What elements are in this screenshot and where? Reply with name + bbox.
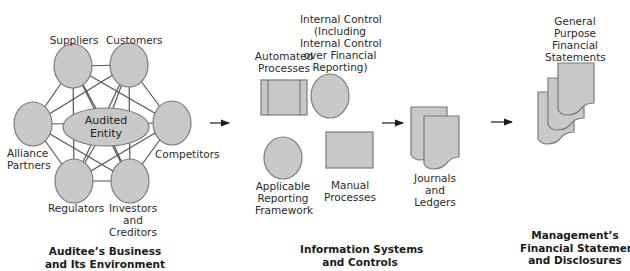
label-audited-line1: Audited [76,114,136,127]
label-fw-line1: Applicable [255,180,311,192]
node-suppliers [54,44,92,88]
reporting-framework-shape [264,137,302,179]
label-manual-line1: Manual [320,179,380,191]
caption-fs-line3: and Disclosures [520,254,630,267]
label-manual-line2: Processes [320,191,380,203]
label-ic-line3: Internal Control [300,37,380,49]
financial-statements-shape [538,63,594,144]
journals-ledgers-shape [411,107,459,169]
label-ic-line2: (Including [300,25,380,37]
node-investors [111,159,149,203]
label-gpfs-line3: Financial [545,39,605,51]
node-customers [110,43,148,87]
internal-control-shape [311,74,349,118]
label-reporting-framework: Applicable Reporting Framework [255,180,311,216]
caption-environment-line2: and Its Environment [40,258,170,271]
label-alliance-partners: Alliance Partners [7,147,53,171]
label-journals-ledgers: Journals and Ledgers [410,172,460,208]
label-gpfs-line4: Statements [545,51,605,63]
label-audited-line2: Entity [76,127,136,140]
label-journals-line1: Journals [410,172,460,184]
label-suppliers: Suppliers [49,34,99,46]
caption-environment-line1: Auditee’s Business [40,245,170,258]
automated-processes-shape [261,80,307,115]
manual-processes-shape [326,132,373,168]
caption-fs-line1: Management’s [520,229,630,242]
label-ic-line4: over Financial [300,49,380,61]
caption-is-line1: Information Systems [300,243,420,256]
label-fw-line3: Framework [255,204,311,216]
label-gpfs-line1: General [545,15,605,27]
label-manual-processes: Manual Processes [320,179,380,203]
label-investors-line2: and [108,214,158,226]
node-competitors [153,101,191,145]
label-investors-creditors: Investors and Creditors [108,202,158,238]
node-alliance-partners [14,102,52,146]
label-alliance-line2: Partners [7,159,53,171]
caption-is-line2: and Controls [300,256,420,269]
label-audited-entity: Audited Entity [76,114,136,140]
label-general-purpose-fs: General Purpose Financial Statements [545,15,605,63]
label-journals-line3: Ledgers [410,196,460,208]
caption-information-systems: Information Systems and Controls [300,243,420,268]
label-fw-line2: Reporting [255,192,311,204]
label-alliance-line1: Alliance [7,147,53,159]
label-journals-line2: and [410,184,460,196]
label-gpfs-line2: Purpose [545,27,605,39]
label-internal-control: Internal Control (Including Internal Con… [300,13,380,73]
label-investors-line1: Investors [108,202,158,214]
label-customers: Customers [106,34,162,46]
label-ic-line5: Reporting) [300,61,380,73]
label-competitors: Competitors [155,148,215,160]
node-regulators [55,159,93,203]
label-regulators: Regulators [48,202,102,214]
label-investors-line3: Creditors [108,226,158,238]
caption-financial-statements: Management’s Financial Statements and Di… [520,229,630,267]
caption-fs-line2: Financial Statements [520,242,630,255]
caption-environment: Auditee’s Business and Its Environment [40,245,170,270]
label-ic-line1: Internal Control [300,13,380,25]
